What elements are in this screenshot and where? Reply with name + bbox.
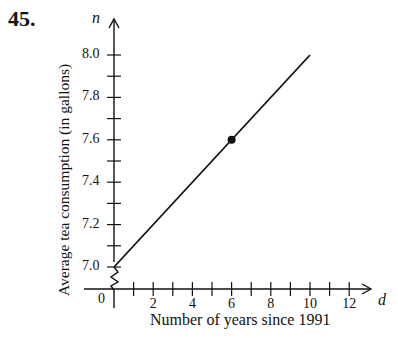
- data-point: [228, 136, 236, 144]
- x-tick-label: 10: [303, 296, 317, 312]
- x-tick-label: 12: [342, 296, 356, 312]
- y-axis-variable: n: [92, 9, 100, 27]
- x-tick-label: 2: [150, 296, 157, 312]
- x-tick-label: 8: [267, 296, 274, 312]
- y-tick-label: 7.2: [82, 216, 100, 232]
- y-tick-label: 7.4: [82, 173, 100, 189]
- y-tick-label: 7.6: [82, 131, 100, 147]
- y-tick-label: 8.0: [82, 46, 100, 62]
- x-axis-variable: d: [378, 291, 386, 309]
- axes: [84, 19, 371, 308]
- data-line: [114, 55, 310, 267]
- y-tick-label: 7.0: [82, 258, 100, 274]
- x-tick-label: 4: [189, 296, 196, 312]
- y-axis-label: Average tea consumption (in gallons): [55, 64, 73, 296]
- x-tick-label: 6: [228, 296, 235, 312]
- y-axis-break-icon: [111, 267, 118, 290]
- x-tick-label: 0: [98, 291, 105, 307]
- x-axis-label: Number of years since 1991: [150, 311, 330, 329]
- y-tick-label: 7.8: [82, 88, 100, 104]
